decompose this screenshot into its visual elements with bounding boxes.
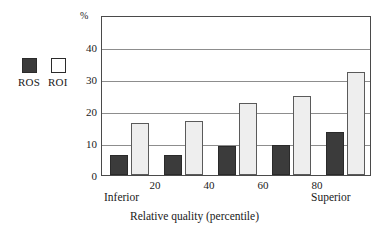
bar-chart-figure: ROS ROI % 010203040 20406080 Inferior Su… xyxy=(0,0,389,232)
legend-swatch-roi xyxy=(51,58,66,73)
x-axis-endcap-inferior: Inferior xyxy=(104,190,139,204)
bar-ros-group-1 xyxy=(110,155,128,175)
bar-roi-group-5 xyxy=(347,72,365,175)
plot-area xyxy=(101,16,371,176)
legend-label-roi: ROI xyxy=(48,76,68,89)
bar-ros-group-3 xyxy=(218,146,236,175)
y-tick-label-20: 20 xyxy=(75,107,97,118)
y-tick-label-0: 0 xyxy=(75,171,97,182)
legend-swatch-ros xyxy=(22,58,37,73)
legend-label-ros: ROS xyxy=(18,76,40,89)
bar-roi-group-2 xyxy=(185,121,203,175)
y-tick-label-40: 40 xyxy=(75,43,97,54)
bar-ros-group-2 xyxy=(164,155,182,175)
chart-legend: ROS ROI xyxy=(18,58,80,100)
x-axis-title: Relative quality (percentile) xyxy=(0,209,389,223)
bar-ros-group-5 xyxy=(326,132,344,175)
plot-inner xyxy=(102,17,370,175)
y-tick-label-10: 10 xyxy=(75,139,97,150)
x-axis-endcap-superior: Superior xyxy=(311,190,351,204)
gridline-20 xyxy=(102,113,370,114)
x-axis-endcaps: Inferior Superior xyxy=(0,190,389,206)
bar-roi-group-4 xyxy=(293,96,311,175)
gridline-40 xyxy=(102,49,370,50)
bar-ros-group-4 xyxy=(272,145,290,175)
y-tick-label-30: 30 xyxy=(75,75,97,86)
gridline-30 xyxy=(102,81,370,82)
bar-roi-group-3 xyxy=(239,103,257,175)
bar-roi-group-1 xyxy=(131,123,149,175)
